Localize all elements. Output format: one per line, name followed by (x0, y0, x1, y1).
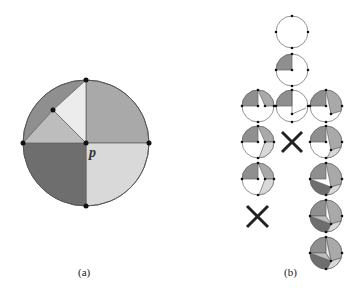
vertex-bottom (84, 204, 89, 209)
state-three-regions-alt (241, 162, 276, 197)
state-one-quadrant (275, 53, 310, 88)
state-three-regions-left (241, 125, 276, 160)
vertex-right (147, 141, 152, 146)
figure: p (a) (0, 0, 362, 298)
state-quadrant-segment (275, 89, 310, 124)
vertex-center-p (84, 141, 89, 146)
state-four-regions (309, 162, 344, 197)
region-bottom-left (23, 143, 86, 206)
panel-a-label: (a) (78, 266, 91, 279)
vertex-left (21, 141, 26, 146)
state-five-regions (309, 199, 344, 234)
cross-rejected-2 (247, 206, 268, 227)
vertex-top (84, 78, 89, 83)
vertex-inner (51, 108, 56, 113)
cross-rejected-1 (282, 132, 302, 152)
state-three-regions-right (309, 125, 344, 160)
panel-b-label: (b) (284, 266, 297, 279)
state-full (309, 236, 344, 271)
region-top-right (86, 80, 149, 143)
point-label-p: p (88, 145, 96, 160)
panel-b (241, 15, 344, 271)
state-quadrant-wedge-b (309, 89, 344, 124)
state-empty (275, 15, 310, 50)
state-quadrant-wedge-a (241, 89, 276, 124)
panel-a: p (21, 78, 152, 209)
